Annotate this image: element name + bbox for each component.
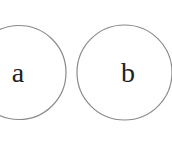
diagram-canvas: a b [0,0,172,146]
node-b: b [77,25,172,120]
node-a: a [0,26,66,120]
circle-a [0,26,66,120]
node-a-label: a [12,57,25,88]
node-b-label: b [121,57,135,88]
